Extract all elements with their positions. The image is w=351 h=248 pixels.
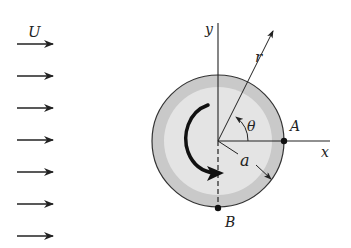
y-axis-label: y — [204, 21, 214, 37]
point-a-label: A — [288, 118, 300, 134]
point-b — [215, 205, 221, 211]
flow-velocity-label: U — [28, 23, 42, 41]
radius-vector-label: r — [255, 48, 263, 66]
cylinder-radius-label: a — [240, 151, 250, 170]
point-b-label: B — [224, 214, 235, 230]
diagram-canvas: U y x r θ a A B — [0, 0, 351, 248]
point-a — [281, 138, 287, 144]
theta-label: θ — [247, 118, 256, 134]
x-axis-label: x — [321, 144, 329, 160]
uniform-flow-arrows — [17, 44, 53, 236]
